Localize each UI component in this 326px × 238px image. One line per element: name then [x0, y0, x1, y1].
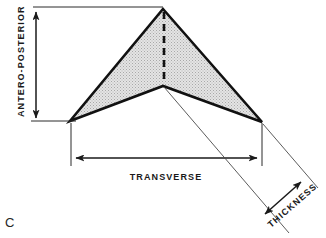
dimension-diagram: ANTERO-POSTERIOR TRANSVERSE THICKNESS C: [0, 0, 326, 238]
antero-posterior-label: ANTERO-POSTERIOR: [16, 5, 26, 117]
chevron-shape: [70, 9, 262, 122]
figure-container: ANTERO-POSTERIOR TRANSVERSE THICKNESS C: [0, 0, 326, 238]
figure-letter: C: [5, 215, 14, 230]
transverse-label: TRANSVERSE: [130, 172, 203, 182]
thickness-projection-line-outer: [263, 124, 318, 188]
transverse-dimension: TRANSVERSE: [71, 123, 262, 182]
chevron-fill: [70, 9, 262, 122]
